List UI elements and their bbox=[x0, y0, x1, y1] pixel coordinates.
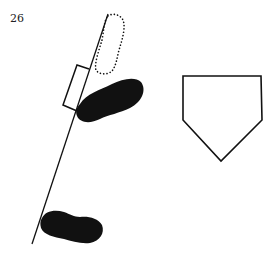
front-foot bbox=[76, 79, 143, 122]
box-line bbox=[32, 14, 108, 244]
dotted-foot-outline bbox=[96, 14, 125, 74]
home-plate bbox=[183, 76, 262, 161]
batting-stance-diagram bbox=[0, 0, 278, 254]
back-foot bbox=[40, 211, 103, 244]
